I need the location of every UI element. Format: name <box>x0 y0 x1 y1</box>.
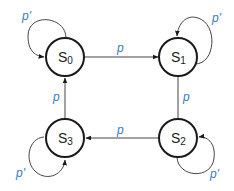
state-s3-subscript: 3 <box>67 136 73 147</box>
state-s1-letter: S <box>171 49 180 65</box>
state-s2-letter: S <box>171 130 180 146</box>
state-s2: S2 <box>159 119 197 157</box>
state-s3: S3 <box>46 119 84 157</box>
label-s0-s1: p <box>116 41 124 55</box>
label-s3-s0: p <box>52 90 60 104</box>
label-s2-s3: p <box>116 123 124 137</box>
label-s1-s2: p <box>182 90 190 104</box>
label-loop-s0: p' <box>21 9 32 23</box>
state-s0-subscript: 0 <box>67 55 73 66</box>
state-s0-letter: S <box>58 49 67 65</box>
state-s2-subscript: 2 <box>180 136 186 147</box>
label-loop-s2: p' <box>209 167 220 181</box>
state-s0: S0 <box>46 38 84 76</box>
state-s1: S1 <box>159 38 197 76</box>
state-s1-subscript: 1 <box>180 55 186 66</box>
state-s3-letter: S <box>58 130 67 146</box>
label-loop-s1: p' <box>211 11 222 25</box>
state-diagram: S0 S1 S2 S3 p p p p p' p' p' p' <box>0 0 234 191</box>
label-loop-s3: p' <box>15 166 26 180</box>
